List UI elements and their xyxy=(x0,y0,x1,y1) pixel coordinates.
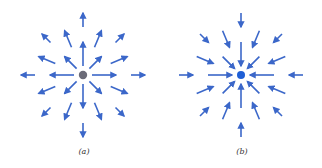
field-arrow-icon xyxy=(95,103,102,120)
field-arrow-icon xyxy=(223,57,235,69)
field-arrow-icon xyxy=(197,57,214,64)
caption-a: (a) xyxy=(69,147,99,156)
field-arrow-icon xyxy=(253,103,260,120)
negative-charge-dot xyxy=(237,71,245,79)
field-arrow-icon xyxy=(200,34,209,43)
field-arrow-icon xyxy=(95,31,102,48)
field-arrow-icon xyxy=(223,81,235,93)
field-arrow-icon xyxy=(116,34,125,43)
field-arrow-icon xyxy=(39,87,56,94)
field-arrow-icon xyxy=(89,57,101,69)
field-arrow-icon xyxy=(111,87,128,94)
field-arrow-icon xyxy=(274,34,283,43)
field-arrow-icon xyxy=(247,57,259,69)
field-arrow-icon xyxy=(223,103,230,120)
field-arrow-icon xyxy=(42,108,51,117)
field-arrow-icon xyxy=(65,81,77,93)
field-arrow-icon xyxy=(247,81,259,93)
field-arrow-icon xyxy=(269,87,286,94)
field-arrow-icon xyxy=(253,31,260,48)
field-arrow-icon xyxy=(223,31,230,48)
field-arrow-icon xyxy=(89,81,101,93)
field-arrow-icon xyxy=(200,108,209,117)
field-diagram xyxy=(0,0,322,168)
field-arrow-icon xyxy=(65,57,77,69)
field-arrow-icon xyxy=(197,87,214,94)
field-arrow-icon xyxy=(269,57,286,64)
field-arrow-icon xyxy=(111,57,128,64)
positive-charge-dot xyxy=(79,71,87,79)
field-arrow-icon xyxy=(65,103,72,120)
field-arrow-icon xyxy=(116,108,125,117)
field-arrow-icon xyxy=(39,57,56,64)
caption-b: (b) xyxy=(227,147,257,156)
field-arrow-icon xyxy=(274,108,283,117)
field-arrow-icon xyxy=(42,34,51,43)
field-arrow-icon xyxy=(65,31,72,48)
